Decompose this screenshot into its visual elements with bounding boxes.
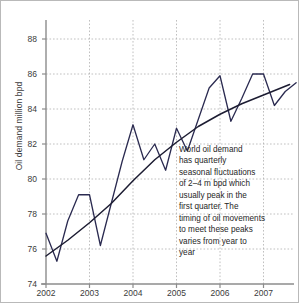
- x-tick-label: 2005: [157, 288, 197, 298]
- annotation-line: of 2–4 m bpd which: [179, 178, 291, 189]
- annotation-line: first quarter. The: [179, 201, 291, 212]
- chart-figure: Oil demand million bpd 7476788082848688 …: [0, 0, 299, 303]
- annotation-line: seasonal fluctuations: [179, 167, 291, 178]
- chart-annotation-text: World oil demandhas quarterlyseasonal fl…: [179, 144, 291, 259]
- x-tick-label: 2007: [244, 288, 284, 298]
- annotation-line: timing of oil movements: [179, 213, 291, 224]
- annotation-line: World oil demand: [179, 144, 291, 155]
- x-tick-label: 2006: [200, 288, 240, 298]
- annotation-line: to meet these peaks: [179, 224, 291, 235]
- annotation-line: usually peak in the: [179, 190, 291, 201]
- x-tick-label: 2004: [113, 288, 153, 298]
- annotation-line: has quarterly: [179, 155, 291, 166]
- x-tick-label: 2003: [70, 288, 110, 298]
- annotation-line: varies from year to: [179, 236, 291, 247]
- x-tick-label: 2002: [26, 288, 66, 298]
- annotation-line: year: [179, 247, 291, 258]
